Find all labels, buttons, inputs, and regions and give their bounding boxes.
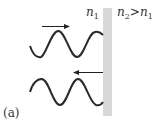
reflected-wave <box>30 79 103 105</box>
incident-wave <box>30 31 103 57</box>
incident-arrow-icon <box>42 24 70 29</box>
reflected-arrow-icon <box>73 70 103 75</box>
panel-label: (a) <box>3 106 20 120</box>
wave-diagram <box>0 0 158 126</box>
